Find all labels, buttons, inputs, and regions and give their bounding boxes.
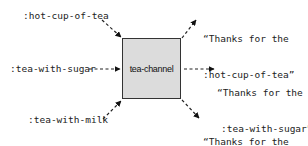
tea-channel-box: tea-channel	[122, 38, 181, 99]
output-line1: “Thanks for the	[217, 87, 308, 99]
tea-channel-label: tea-channel	[130, 64, 174, 74]
input-hot-cup-of-tea: :hot-cup-of-tea	[23, 10, 109, 22]
input-tea-with-milk: :tea-with-milk	[28, 114, 108, 126]
output-tea-with-milk: “Thanks for the :tea-with-milk”	[203, 112, 289, 146]
arrow-hot-cup-out	[182, 20, 196, 38]
arrow-milk-out	[182, 100, 199, 118]
output-line1: “Thanks for the	[203, 136, 289, 146]
arrow-hot-cup-in	[102, 20, 121, 37]
output-line1: “Thanks for the	[203, 33, 295, 45]
input-tea-with-sugar: :tea-with-sugar	[10, 63, 96, 75]
